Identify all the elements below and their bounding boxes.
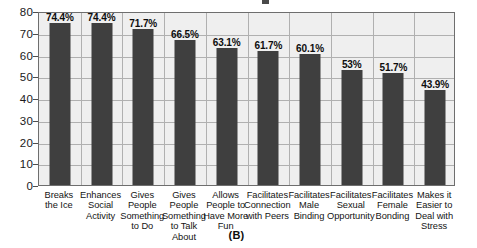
bar	[49, 23, 70, 185]
x-axis-category-label-line: Deal with	[409, 211, 459, 221]
bar-group: 71.7%	[122, 13, 164, 185]
bar-value-label: 71.7%	[129, 18, 157, 29]
bar	[174, 40, 195, 185]
y-axis: 01020304050607080	[0, 12, 33, 186]
plot-area: 74.4%74.4%71.7%66.5%63.1%61.7%60.1%53%51…	[38, 12, 455, 186]
y-axis-tick-label: 80	[3, 7, 33, 17]
bar-group: 74.4%	[81, 13, 123, 185]
bar-value-label: 74.4%	[46, 12, 74, 23]
bar-chart-figure: 01020304050607080 74.4%74.4%71.7%66.5%63…	[0, 0, 477, 248]
bar-group: 60.1%	[289, 13, 331, 185]
bar-value-label: 51.7%	[380, 62, 408, 73]
y-axis-tick-label: 10	[3, 159, 33, 169]
bar	[341, 70, 362, 185]
bar-group: 63.1%	[206, 13, 248, 185]
bar-value-label: 63.1%	[213, 37, 241, 48]
bar	[383, 73, 404, 185]
y-axis-tick-mark	[33, 186, 38, 187]
bar-group: 53%	[331, 13, 373, 185]
bar-value-label: 61.7%	[254, 40, 282, 51]
figure-caption: (B)	[0, 229, 477, 241]
y-axis-tick-label: 60	[3, 51, 33, 61]
x-axis-category-label: Makes itEasier toDeal withStress	[409, 190, 459, 232]
bar-group: 66.5%	[164, 13, 206, 185]
y-axis-tick-label: 0	[3, 181, 33, 191]
bar	[91, 23, 112, 185]
bar	[133, 29, 154, 185]
bar-group: 61.7%	[248, 13, 290, 185]
bar-value-label: 74.4%	[88, 12, 116, 23]
bar-group: 74.4%	[39, 13, 81, 185]
bar	[216, 48, 237, 185]
bar	[425, 90, 446, 185]
x-axis-category-label-line: Easier to	[409, 200, 459, 210]
bar-group: 43.9%	[414, 13, 456, 185]
bar-value-label: 53%	[342, 59, 362, 70]
x-axis-category-label-line: Makes it	[409, 190, 459, 200]
bar-value-label: 60.1%	[296, 43, 324, 54]
bar	[258, 51, 279, 185]
y-axis-tick-label: 40	[3, 94, 33, 104]
y-axis-tick-label: 30	[3, 116, 33, 126]
y-axis-tick-label: 20	[3, 138, 33, 148]
y-axis-tick-label: 50	[3, 72, 33, 82]
figure-caption-text: (B)	[229, 229, 245, 241]
bar	[300, 54, 321, 185]
bar-value-label: 66.5%	[171, 29, 199, 40]
y-axis-tick-label: 70	[3, 29, 33, 39]
cropped-title-artifact	[262, 0, 269, 4]
bar-value-label: 43.9%	[421, 79, 449, 90]
bar-group: 51.7%	[373, 13, 415, 185]
